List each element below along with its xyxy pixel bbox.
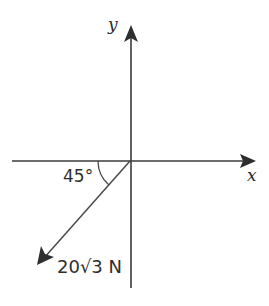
x-axis-label: x <box>247 165 257 185</box>
angle-label: 45° <box>63 166 93 186</box>
y-axis-label: y <box>107 14 118 34</box>
force-magnitude-label: 20√3 N <box>57 256 122 277</box>
angle-arc <box>98 161 109 185</box>
vector-diagram-figure: y x 45° 20√3 N <box>0 0 269 306</box>
diagram-canvas: y x 45° 20√3 N <box>0 0 269 306</box>
